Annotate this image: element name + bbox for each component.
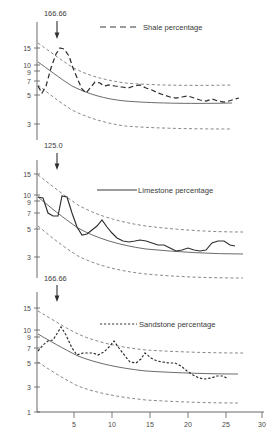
y-ticklabel-sandstone-3: 3: [27, 384, 31, 391]
y-ticklabel-limestone-5: 5: [27, 226, 31, 233]
x-ticklabel-25: 25: [222, 421, 230, 428]
x-ticklabel-30: 30: [258, 421, 266, 428]
y-ticklabel-shale-10: 10: [23, 62, 31, 69]
y-ticklabel-sandstone-1: 1: [27, 409, 31, 416]
legend-label-sandstone: Sandstone percentage: [139, 320, 215, 329]
y-ticklabel-sandstone-10: 10: [23, 327, 31, 334]
x-ticklabel-10: 10: [108, 421, 116, 428]
y-ticklabel-shale-3: 3: [27, 121, 31, 128]
legend-label-shale: Shale percentage: [143, 23, 203, 32]
annotation-label-sandstone: 166.66: [44, 274, 67, 283]
y-ticklabel-limestone-15: 15: [23, 171, 31, 178]
y-ticklabel-limestone-3: 3: [27, 254, 31, 261]
y-ticklabel-sandstone-9: 9: [27, 334, 31, 341]
x-ticklabel-15: 15: [146, 421, 154, 428]
three-panel-lithology-figure: 15 10 9 7 5 3 166.66 Shale percentage: [0, 0, 270, 432]
y-ticklabel-sandstone-15: 15: [23, 305, 31, 312]
y-ticklabel-limestone-7: 7: [27, 210, 31, 217]
y-ticklabel-shale-9: 9: [27, 69, 31, 76]
annotation-label-limestone: 125.0: [44, 141, 63, 150]
y-ticklabel-limestone-10: 10: [23, 192, 31, 199]
y-ticklabel-shale-15: 15: [23, 45, 31, 52]
y-ticklabel-sandstone-5: 5: [27, 360, 31, 367]
figure-background: [0, 0, 270, 432]
y-ticklabel-shale-5: 5: [27, 92, 31, 99]
y-ticklabel-sandstone-7: 7: [27, 345, 31, 352]
x-ticklabel-20: 20: [184, 421, 192, 428]
y-ticklabel-limestone-9: 9: [27, 199, 31, 206]
y-ticklabel-shale-7: 7: [27, 78, 31, 85]
legend-label-limestone: Limestone percentage: [138, 186, 213, 195]
x-ticklabel-5: 5: [72, 421, 76, 428]
annotation-label-shale: 166.66: [44, 9, 67, 18]
